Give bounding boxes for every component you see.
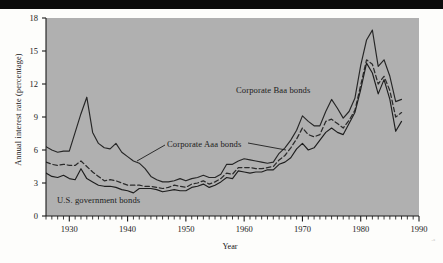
x-tick-label: 1990	[404, 224, 434, 234]
x-tick-label: 1950	[171, 224, 201, 234]
figure-page: Annual interest rate (percentage) Year C…	[0, 0, 443, 263]
y-tick-label: 12	[16, 79, 38, 89]
series-line-2	[46, 63, 402, 193]
series-label-aaa: Corporate Aaa bonds	[167, 139, 241, 149]
data-lines	[46, 18, 419, 216]
x-tick-label: 1940	[113, 224, 143, 234]
y-tick-label: 18	[16, 13, 38, 23]
x-axis-title: Year	[200, 242, 260, 251]
y-tick-label: 6	[16, 145, 38, 155]
chart-figure: Annual interest rate (percentage) Year C…	[0, 9, 443, 263]
y-tick-label: 9	[16, 112, 38, 122]
scan-smudge: ·ᵃ	[431, 237, 439, 243]
y-tick-label: 0	[16, 211, 38, 221]
x-tick-label: 1970	[287, 224, 317, 234]
y-tick-label: 15	[16, 46, 38, 56]
series-label-government: U.S. government bonds	[57, 195, 140, 205]
series-label-baa: Corporate Baa bonds	[236, 85, 310, 95]
series-line-0	[46, 30, 402, 182]
x-tick-label: 1980	[346, 224, 376, 234]
plot-area	[46, 18, 419, 216]
x-tick-label: 1960	[229, 224, 259, 234]
y-axis-title: Annual interest rate (percentage)	[14, 45, 23, 175]
y-tick-label: 3	[16, 178, 38, 188]
x-tick-label: 1930	[54, 224, 84, 234]
scan-black-band	[0, 0, 443, 9]
